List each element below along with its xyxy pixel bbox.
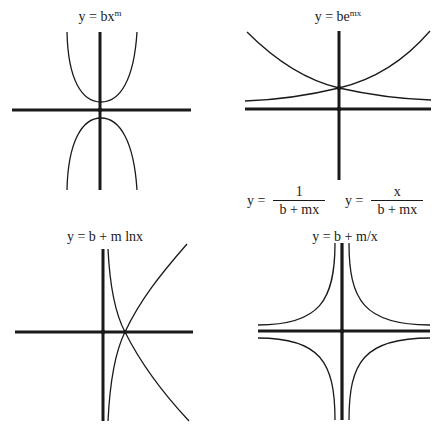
reciprocal-branch-upper-left: [258, 243, 335, 325]
function-plots: [0, 0, 443, 429]
log-curve-decreasing: [108, 249, 189, 421]
panel-power-plot: [12, 32, 191, 190]
panel-exponential-plot: [245, 31, 431, 180]
log-origin-dot: [101, 330, 105, 334]
panel-logarithmic-plot: [15, 244, 193, 421]
log-intersection-dot: [123, 330, 127, 334]
reciprocal-branch-lower-right: [349, 338, 430, 420]
power-curve-upper: [67, 32, 137, 102]
exponential-intersection-dot: [337, 86, 341, 90]
exponential-origin-dot: [337, 107, 341, 111]
reciprocal-origin-dot: [340, 329, 344, 333]
power-origin-dot: [98, 108, 102, 112]
power-curve-lower: [67, 118, 137, 190]
reciprocal-branch-lower-left: [258, 338, 335, 420]
panel-reciprocal-plot: [258, 243, 430, 420]
reciprocal-branch-upper-right: [349, 243, 430, 325]
